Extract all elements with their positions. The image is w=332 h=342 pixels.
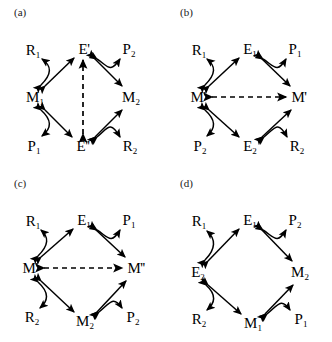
panel-b: (b) R1 E1 P1 M' M' P2 E2 R2	[166, 0, 332, 171]
node-e1: E1	[243, 42, 257, 57]
edge-e2-mprimer	[262, 110, 291, 137]
node-e2: E2	[191, 265, 205, 280]
node-r1: R1	[26, 214, 41, 229]
panel-c: (c) R1 E1 P1 M' M'' R2 M2 P2	[0, 171, 166, 342]
node-m-doubleprime: M''	[127, 261, 144, 276]
node-m2: M2	[291, 265, 309, 280]
figure-container: (a)	[0, 0, 332, 342]
node-m1: M1	[26, 90, 44, 105]
node-e1: E1	[243, 213, 257, 228]
node-e1: E1	[77, 213, 91, 228]
edge-e1-mprimer	[261, 58, 290, 86]
node-r2: R2	[192, 312, 207, 327]
node-p2: P2	[127, 310, 140, 325]
node-r2: R2	[123, 139, 138, 154]
node-m1: M1	[244, 316, 262, 331]
panel-d: (d) R1 E1 P2 E2 M2 R2 M1 P1	[166, 171, 332, 342]
node-m2: M2	[122, 90, 140, 105]
node-e-prime: E'	[79, 42, 90, 57]
node-r1: R1	[192, 214, 207, 229]
edge-eprime-p2	[97, 59, 120, 68]
node-m-prime-left: M'	[190, 90, 205, 105]
node-p1: P1	[295, 312, 308, 327]
edge-mprimel-r1	[205, 59, 214, 85]
panel-a: (a)	[0, 0, 166, 171]
node-p2: P2	[289, 213, 302, 228]
node-r2: R2	[290, 139, 305, 154]
edge-e2-e1	[208, 229, 239, 261]
node-p1: P1	[28, 139, 41, 154]
edge-m1-r1	[41, 59, 49, 85]
node-m2: M2	[76, 314, 94, 329]
node-r1: R1	[26, 43, 41, 58]
node-m-prime: M'	[22, 261, 37, 276]
node-e2: E2	[243, 139, 257, 154]
node-e-doubleprime: E''	[76, 139, 89, 154]
node-p1: P1	[289, 42, 302, 57]
edge-e1-m2	[261, 229, 292, 261]
edge-mprime-r1	[38, 230, 47, 256]
node-p1: P1	[123, 213, 136, 228]
node-p2: P2	[123, 42, 136, 57]
node-p2: P2	[194, 139, 207, 154]
node-m-prime-right: M'	[291, 90, 306, 105]
edge-m1-m2	[265, 285, 293, 314]
node-r2: R2	[25, 310, 40, 325]
node-r1: R1	[192, 43, 207, 58]
edge-e1-mdoubleprime	[95, 229, 125, 257]
